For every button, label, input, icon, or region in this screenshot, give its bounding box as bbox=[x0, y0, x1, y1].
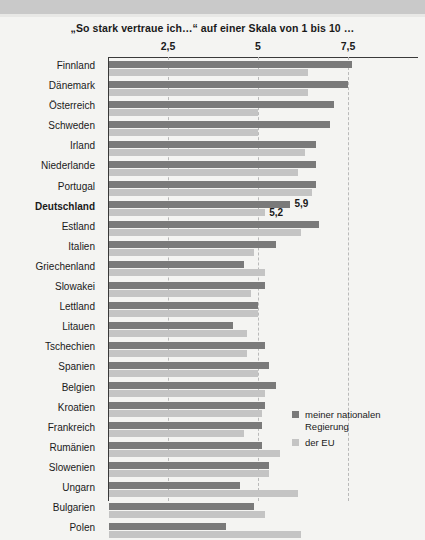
bar-griechenland-eu bbox=[109, 269, 265, 276]
bar-tschechien-national bbox=[109, 342, 265, 349]
chart-row: Irland bbox=[0, 138, 425, 158]
category-label-finnland: Finnland bbox=[0, 60, 95, 71]
category-label-spanien: Spanien bbox=[0, 361, 95, 372]
bar-dänemark-national bbox=[109, 81, 348, 88]
value-label-deutschland-national: 5,9 bbox=[294, 198, 308, 209]
chart-row: Dänemark bbox=[0, 78, 425, 98]
bar-kroatien-eu bbox=[109, 410, 262, 417]
category-label-schweden: Schweden bbox=[0, 120, 95, 131]
category-label-niederlande: Niederlande bbox=[0, 160, 95, 171]
chart-row: Bulgarien bbox=[0, 500, 425, 520]
bar-slowenien-eu bbox=[109, 470, 269, 477]
legend-item-eu[interactable]: der EU bbox=[292, 437, 381, 449]
bar-slowenien-national bbox=[109, 462, 269, 469]
chart-title: „So stark vertraue ich…“ auf einer Skala… bbox=[0, 22, 425, 34]
top-banner bbox=[0, 0, 425, 14]
category-label-belgien: Belgien bbox=[0, 382, 95, 393]
bar-spanien-national bbox=[109, 362, 269, 369]
bar-tschechien-eu bbox=[109, 350, 247, 357]
bar-finnland-national bbox=[109, 61, 352, 68]
chart-row: Schweden bbox=[0, 118, 425, 138]
category-label-estland: Estland bbox=[0, 221, 95, 232]
category-label-bulgarien: Bulgarien bbox=[0, 502, 95, 513]
bar-slowakei-eu bbox=[109, 290, 251, 297]
legend-label: der EU bbox=[305, 437, 381, 449]
bar-polen-national bbox=[109, 523, 226, 530]
bar-niederlande-eu bbox=[109, 169, 298, 176]
category-label-dänemark: Dänemark bbox=[0, 80, 95, 91]
chart-row: Deutschland5,95,2 bbox=[0, 199, 425, 219]
chart-row: Spanien bbox=[0, 359, 425, 379]
bar-schweden-eu bbox=[109, 129, 258, 136]
category-label-slowakei: Slowakei bbox=[0, 281, 95, 292]
bar-irland-eu bbox=[109, 149, 305, 156]
bar-italien-eu bbox=[109, 249, 254, 256]
bar-italien-national bbox=[109, 241, 276, 248]
category-label-frankreich: Frankreich bbox=[0, 422, 95, 433]
bar-niederlande-national bbox=[109, 161, 316, 168]
chart-legend: meiner nationalen Regierungder EU bbox=[292, 409, 381, 454]
category-label-deutschland: Deutschland bbox=[0, 201, 95, 212]
chart-row: Portugal bbox=[0, 179, 425, 199]
bar-portugal-eu bbox=[109, 189, 312, 196]
bar-österreich-national bbox=[109, 101, 334, 108]
bar-ungarn-eu bbox=[109, 490, 298, 497]
chart-row: Tschechien bbox=[0, 339, 425, 359]
bar-griechenland-national bbox=[109, 261, 244, 268]
category-label-polen: Polen bbox=[0, 522, 95, 533]
chart-rows: FinnlandDänemarkÖsterreichSchwedenIrland… bbox=[0, 58, 425, 540]
category-label-tschechien: Tschechien bbox=[0, 341, 95, 352]
x-tick-label-7-5: 7,5 bbox=[341, 40, 356, 52]
category-label-lettland: Lettland bbox=[0, 301, 95, 312]
bar-deutschland-eu bbox=[109, 209, 265, 216]
chart-row: Lettland bbox=[0, 299, 425, 319]
chart-row: Belgien bbox=[0, 380, 425, 400]
bar-estland-national bbox=[109, 221, 319, 228]
chart-row: Estland bbox=[0, 219, 425, 239]
bar-frankreich-eu bbox=[109, 430, 244, 437]
chart-row: Italien bbox=[0, 239, 425, 259]
banner-edge bbox=[0, 14, 425, 17]
legend-label: meiner nationalen Regierung bbox=[305, 409, 381, 432]
bar-kroatien-national bbox=[109, 402, 265, 409]
bar-schweden-national bbox=[109, 121, 330, 128]
bar-frankreich-national bbox=[109, 422, 262, 429]
bar-litauen-eu bbox=[109, 330, 247, 337]
bar-deutschland-national bbox=[109, 201, 290, 208]
legend-swatch-icon bbox=[292, 411, 299, 418]
chart-row: Slowakei bbox=[0, 279, 425, 299]
category-label-italien: Italien bbox=[0, 241, 95, 252]
chart-row: Litauen bbox=[0, 319, 425, 339]
category-label-griechenland: Griechenland bbox=[0, 261, 95, 272]
x-tick-label-5: 5 bbox=[255, 40, 261, 52]
chart-row: Ungarn bbox=[0, 480, 425, 500]
bar-lettland-eu bbox=[109, 310, 258, 317]
chart-row: Slowenien bbox=[0, 460, 425, 480]
category-label-irland: Irland bbox=[0, 140, 95, 151]
chart-row: Griechenland bbox=[0, 259, 425, 279]
chart-row: Österreich bbox=[0, 98, 425, 118]
bar-bulgarien-national bbox=[109, 503, 254, 510]
bar-belgien-eu bbox=[109, 390, 265, 397]
category-label-österreich: Österreich bbox=[0, 100, 95, 111]
bar-bulgarien-eu bbox=[109, 511, 265, 518]
value-label-deutschland-eu: 5,2 bbox=[269, 207, 283, 218]
x-tick-label-2-5: 2,5 bbox=[161, 40, 176, 52]
bar-litauen-national bbox=[109, 322, 233, 329]
legend-item-national-government[interactable]: meiner nationalen Regierung bbox=[292, 409, 381, 432]
bar-estland-eu bbox=[109, 229, 301, 236]
category-label-litauen: Litauen bbox=[0, 321, 95, 332]
bar-spanien-eu bbox=[109, 370, 258, 377]
bar-österreich-eu bbox=[109, 109, 258, 116]
bar-rumänien-national bbox=[109, 442, 262, 449]
bar-lettland-national bbox=[109, 302, 258, 309]
category-label-ungarn: Ungarn bbox=[0, 482, 95, 493]
category-label-rumänien: Rumänien bbox=[0, 442, 95, 453]
bar-ungarn-national bbox=[109, 482, 240, 489]
category-label-slowenien: Slowenien bbox=[0, 462, 95, 473]
bar-rumänien-eu bbox=[109, 450, 280, 457]
category-label-portugal: Portugal bbox=[0, 181, 95, 192]
bar-finnland-eu bbox=[109, 69, 308, 76]
chart-row: Niederlande bbox=[0, 158, 425, 178]
bar-belgien-national bbox=[109, 382, 276, 389]
